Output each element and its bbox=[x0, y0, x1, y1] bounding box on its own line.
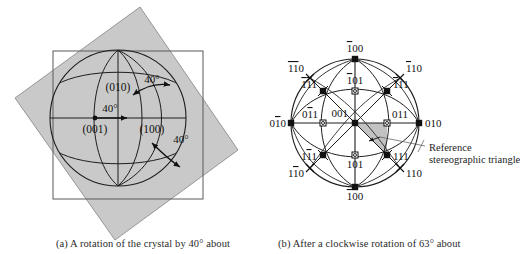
angle-label-40-top-right: 40° bbox=[144, 73, 159, 85]
pole-label: 110 bbox=[406, 62, 423, 74]
marker-filled-square bbox=[416, 120, 422, 126]
pole-label: 111 bbox=[301, 78, 317, 90]
marker-open-square bbox=[384, 120, 390, 126]
pole-010[interactable]: 010 bbox=[416, 117, 442, 129]
pole-label: 011 bbox=[392, 108, 408, 120]
pole-label: 010 bbox=[270, 117, 287, 129]
marker-open-square bbox=[352, 88, 358, 94]
pole-label: 101 bbox=[347, 74, 364, 86]
panel-a-pole-label-100: (100) bbox=[140, 123, 165, 136]
pole-label: 001 bbox=[332, 107, 349, 119]
pole-label: 111 bbox=[393, 150, 409, 162]
pole-label: 101 bbox=[347, 158, 364, 170]
marker-filled-square bbox=[288, 120, 294, 126]
pole-label: 010 bbox=[425, 117, 442, 129]
pole-1bar11[interactable]: 111 bbox=[301, 150, 328, 162]
marker-filled-square bbox=[352, 56, 358, 62]
panel-a-pole-label-010: (010) bbox=[106, 81, 131, 94]
panel-a-caption: (a) A rotation of the crystal by 40° abo… bbox=[56, 238, 230, 249]
angle-label-40-center: 40° bbox=[102, 102, 117, 114]
pole-group: 1001000100100011011010110111111111111111… bbox=[270, 42, 443, 202]
panel-a: (010) (001) 40° (100) 40° 40° bbox=[15, 7, 238, 240]
annotation-reference-line1: Reference bbox=[429, 142, 472, 153]
pole-bar101[interactable]: 101 bbox=[347, 74, 364, 94]
annotation-tick bbox=[418, 140, 424, 152]
panel-a-pole-label-001: (001) bbox=[83, 123, 108, 136]
annotation-reference-line2: stereographic triangle bbox=[429, 154, 520, 165]
pole-label: 011 bbox=[302, 108, 318, 120]
pole-101[interactable]: 101 bbox=[347, 152, 364, 170]
pole-label: 111 bbox=[393, 78, 409, 90]
crystallography-figure: (010) (001) 40° (100) 40° 40° bbox=[0, 0, 520, 254]
pole-label: 110 bbox=[288, 62, 305, 74]
pole-0bar10[interactable]: 010 bbox=[270, 117, 295, 129]
pole-label: 100 bbox=[347, 42, 364, 54]
marker-open-square bbox=[320, 120, 326, 126]
pole-1bar10[interactable]: 110 bbox=[288, 164, 314, 179]
rotated-crystal-square bbox=[15, 7, 238, 240]
panel-b-caption: (b) After a clockwise rotation of 63° ab… bbox=[278, 238, 461, 249]
pole-label: 110 bbox=[406, 167, 423, 179]
pole-label: 111 bbox=[301, 150, 317, 162]
panel-b: 1001000100100011011010110111111111111111… bbox=[270, 42, 520, 202]
pole-110[interactable]: 110 bbox=[396, 164, 423, 179]
pole-label: 100 bbox=[347, 190, 364, 202]
pole-label: 110 bbox=[288, 167, 305, 179]
marker-filled-square bbox=[352, 120, 358, 126]
angle-label-40-bottom-right: 40° bbox=[173, 133, 188, 145]
pole-111[interactable]: 111 bbox=[382, 150, 409, 162]
